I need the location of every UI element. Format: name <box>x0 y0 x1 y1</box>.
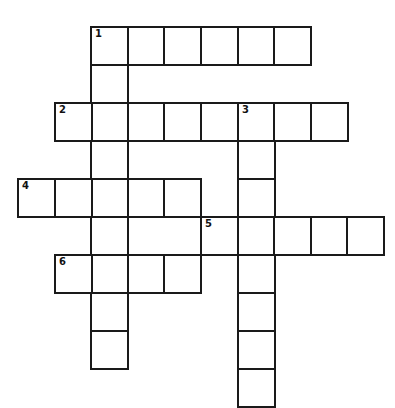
clue-number: 5 <box>205 219 212 229</box>
clue-number: 6 <box>59 257 66 267</box>
crossword-cell[interactable]: 5 <box>200 216 239 256</box>
crossword-cell[interactable]: 6 <box>54 254 93 294</box>
crossword-cell[interactable] <box>90 102 129 142</box>
crossword-cell[interactable] <box>237 368 276 408</box>
crossword-cell[interactable]: 1 <box>90 26 129 66</box>
crossword-cell[interactable] <box>237 216 276 256</box>
clue-number: 2 <box>59 105 66 115</box>
crossword-cell[interactable] <box>90 64 129 104</box>
crossword-cell[interactable] <box>200 102 239 142</box>
crossword-cell[interactable] <box>90 254 129 294</box>
crossword-cell[interactable] <box>237 254 276 294</box>
crossword-cell[interactable] <box>310 216 349 256</box>
crossword-cell[interactable] <box>200 26 239 66</box>
crossword-cell[interactable] <box>127 178 166 218</box>
crossword-cell[interactable] <box>237 330 276 370</box>
crossword-cell[interactable] <box>127 26 166 66</box>
crossword-cell[interactable] <box>237 140 276 180</box>
crossword-cell[interactable] <box>237 26 276 66</box>
crossword-cell[interactable] <box>163 254 202 294</box>
crossword-cell[interactable] <box>273 216 312 256</box>
crossword-cell[interactable] <box>127 102 166 142</box>
crossword-cell[interactable] <box>163 102 202 142</box>
crossword-cell[interactable] <box>90 216 129 256</box>
crossword-cell[interactable] <box>310 102 349 142</box>
clue-number: 3 <box>242 105 249 115</box>
crossword-cell[interactable] <box>90 292 129 332</box>
crossword-cell[interactable]: 3 <box>237 102 276 142</box>
crossword-cell[interactable]: 2 <box>54 102 93 142</box>
crossword-cell[interactable] <box>163 26 202 66</box>
crossword-cell[interactable] <box>237 292 276 332</box>
crossword-cell[interactable] <box>237 178 276 218</box>
crossword-cell[interactable] <box>54 178 93 218</box>
clue-number: 1 <box>95 29 102 39</box>
crossword-cell[interactable] <box>273 102 312 142</box>
crossword-cell[interactable] <box>273 26 312 66</box>
crossword-cell[interactable] <box>127 254 166 294</box>
crossword-cell[interactable]: 4 <box>17 178 56 218</box>
crossword-cell[interactable] <box>346 216 385 256</box>
clue-number: 4 <box>22 181 29 191</box>
crossword-cell[interactable] <box>90 330 129 370</box>
crossword-cell[interactable] <box>90 178 129 218</box>
crossword-cell[interactable] <box>90 140 129 180</box>
crossword-cell[interactable] <box>163 178 202 218</box>
